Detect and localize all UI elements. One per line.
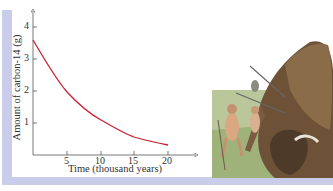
y-tick-label: 4 [24, 20, 29, 31]
x-tick-label: 5 [64, 155, 69, 166]
x-tick-label: 20 [162, 155, 172, 166]
x-axis-label: Time (thousand years) [50, 163, 180, 174]
x-tick-label: 10 [95, 155, 105, 166]
y-tick-label: 1 [24, 116, 29, 127]
decay-chart: Amount of carbon-14 (g) Time (thousand y… [0, 0, 200, 191]
bison-hunt-illustration [200, 30, 333, 178]
x-ticks [67, 151, 168, 155]
y-tick-label: 3 [24, 52, 29, 63]
decay-curve [33, 40, 168, 145]
y-tick-label: 2 [24, 84, 29, 95]
x-tick-label: 15 [128, 155, 138, 166]
y-axis-label: Amount of carbon-14 (g) [11, 32, 22, 144]
